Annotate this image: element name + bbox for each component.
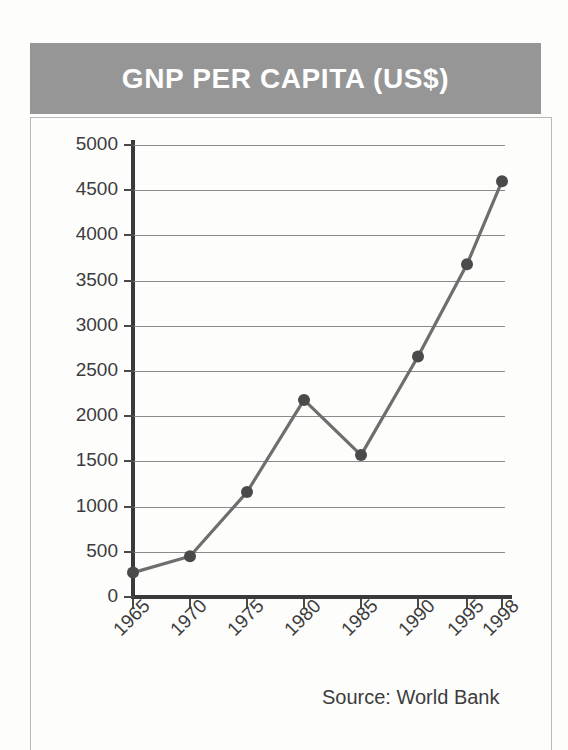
y-axis-tick <box>124 370 134 372</box>
y-axis-tick-label-text: 5000 <box>76 133 118 155</box>
title-banner: GNP PER CAPITA (US$) <box>30 43 541 114</box>
y-axis-tick-label-text: 500 <box>86 540 118 562</box>
y-axis-tick-label-text: 1000 <box>76 495 118 517</box>
y-axis-tick <box>124 280 134 282</box>
chart-panel <box>30 117 552 750</box>
y-axis-tick <box>124 551 134 553</box>
y-axis-tick-label-text: 4000 <box>76 223 118 245</box>
y-axis-tick <box>124 460 134 462</box>
y-axis-line <box>131 140 135 598</box>
y-axis-tick <box>124 325 134 327</box>
gridline <box>133 281 505 282</box>
y-axis-tick-label-text: 3500 <box>76 269 118 291</box>
gridline <box>133 145 505 146</box>
gridline <box>133 190 505 191</box>
gridline <box>133 326 505 327</box>
chart-page: GNP PER CAPITA (US$) 5000450040003500300… <box>0 0 568 750</box>
y-axis-tick <box>124 596 134 598</box>
gridline <box>133 371 505 372</box>
y-axis-tick <box>124 234 134 236</box>
y-axis-tick-label-text: 0 <box>107 585 118 607</box>
y-axis-tick <box>124 415 134 417</box>
source-note: Source: World Bank <box>322 686 500 709</box>
gridline <box>133 552 505 553</box>
y-axis-tick <box>124 144 134 146</box>
gridline <box>133 507 505 508</box>
y-axis-tick-label-text: 4500 <box>76 178 118 200</box>
gridline <box>133 416 505 417</box>
y-axis-tick <box>124 506 134 508</box>
gridline <box>133 235 505 236</box>
page-title: GNP PER CAPITA (US$) <box>122 63 449 95</box>
y-axis-tick <box>124 189 134 191</box>
y-axis-tick-label-text: 3000 <box>76 314 118 336</box>
y-axis-tick-label-text: 2000 <box>76 404 118 426</box>
y-axis-tick-label-text: 2500 <box>76 359 118 381</box>
gridline <box>133 461 505 462</box>
y-axis-tick-label-text: 1500 <box>76 449 118 471</box>
